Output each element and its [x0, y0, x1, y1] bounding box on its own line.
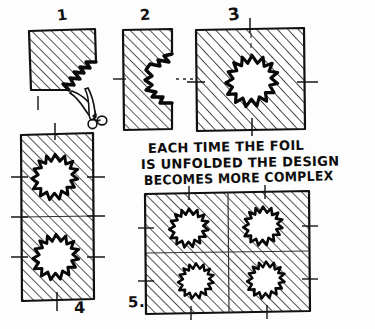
scissors-icon: [70, 88, 107, 129]
panel-2-number-label: 2: [139, 8, 151, 24]
panel-1-group: [29, 29, 96, 110]
panel-2-group: [113, 29, 196, 130]
panel-4-number-label: 4: [74, 300, 86, 316]
panel-1-number-label: 1: [56, 7, 69, 23]
panel-3-number-label: 3: [227, 5, 242, 24]
panel-3-group: [187, 18, 318, 136]
caption-text: EACH TIME THE FOIL IS UNFOLDED THE DESIG…: [141, 141, 373, 189]
panel-4-group: [11, 123, 105, 311]
diagram-canvas: 1 2 3 4 5. EACH TIME THE FOIL IS UNFOLDE…: [0, 0, 375, 329]
panel-5-number-label: 5.: [128, 295, 145, 310]
panel-5-group: [138, 185, 318, 320]
panel-1-foil: [29, 29, 96, 90]
